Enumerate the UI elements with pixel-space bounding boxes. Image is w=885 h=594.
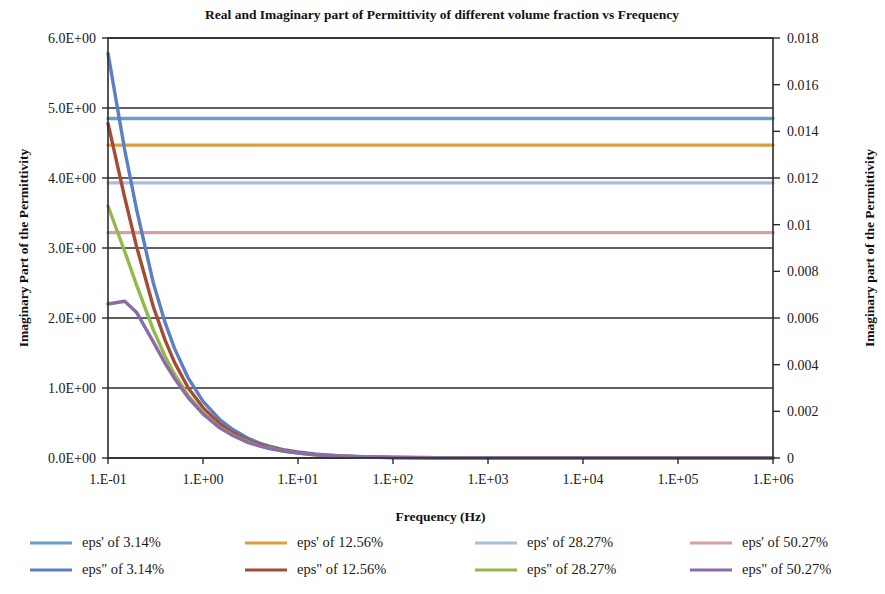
legend-item-label: eps" of 12.56% — [297, 561, 386, 577]
x-axis-title: Frequency (Hz) — [395, 509, 485, 524]
secondary-y-tick-label: 0.012 — [787, 171, 819, 186]
legend-item-label: eps' of 12.56% — [297, 534, 383, 550]
x-tick-label: 1.E+03 — [468, 472, 509, 487]
secondary-y-tick-label: 0.008 — [787, 264, 819, 279]
x-tick-label: 1.E+06 — [753, 472, 794, 487]
secondary-y-tick-label: 0.006 — [787, 311, 819, 326]
secondary-y-tick-label: 0.016 — [787, 78, 819, 93]
x-tick-label: 1.E+00 — [183, 472, 224, 487]
x-tick-label: 1.E+05 — [658, 472, 699, 487]
permittivity-chart-figure: Real and Imaginary part of Permittivity … — [0, 0, 885, 594]
figure-background — [0, 0, 885, 594]
y-tick-label: 4.0E+00 — [48, 171, 96, 186]
secondary-y-axis-title: Imaginary part of the Permittivity — [862, 149, 877, 347]
y-tick-label: 3.0E+00 — [48, 241, 96, 256]
secondary-y-tick-label: 0.01 — [787, 218, 812, 233]
legend-item-label: eps' of 50.27% — [742, 534, 828, 550]
y-tick-label: 0.0E+00 — [48, 451, 96, 466]
y-tick-label: 5.0E+00 — [48, 101, 96, 116]
y-tick-label: 1.0E+00 — [48, 381, 96, 396]
secondary-y-tick-label: 0 — [787, 451, 794, 466]
chart-title: Real and Imaginary part of Permittivity … — [205, 7, 679, 22]
y-tick-label: 6.0E+00 — [48, 31, 96, 46]
y-axis-title: Imaginary Part of the Permittivity — [16, 148, 31, 347]
legend-item-label: eps" of 28.27% — [527, 561, 616, 577]
secondary-y-tick-label: 0.018 — [787, 31, 819, 46]
x-tick-label: 1.E-01 — [89, 472, 127, 487]
legend-item-label: eps' of 28.27% — [527, 534, 613, 550]
secondary-y-tick-label: 0.014 — [787, 124, 819, 139]
legend-item-label: eps" of 3.14% — [82, 561, 164, 577]
legend-item-label: eps" of 50.27% — [742, 561, 831, 577]
x-tick-label: 1.E+04 — [563, 472, 604, 487]
x-tick-label: 1.E+02 — [373, 472, 414, 487]
x-tick-label: 1.E+01 — [278, 472, 319, 487]
y-tick-label: 2.0E+00 — [48, 311, 96, 326]
secondary-y-tick-label: 0.002 — [787, 404, 819, 419]
secondary-y-tick-label: 0.004 — [787, 358, 819, 373]
legend-item-label: eps' of 3.14% — [82, 534, 161, 550]
